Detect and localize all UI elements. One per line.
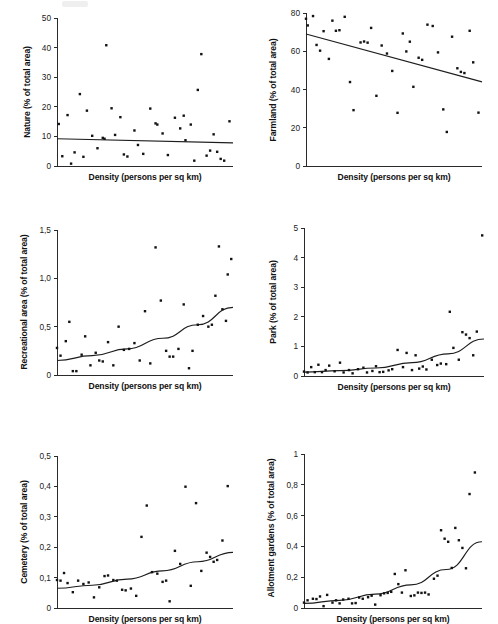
chart-nature: 01020304050Nature (% of total area)Densi… xyxy=(0,0,249,208)
data-point xyxy=(130,587,132,589)
data-point xyxy=(335,30,337,32)
data-point xyxy=(227,485,229,487)
data-point xyxy=(102,360,104,362)
data-point xyxy=(379,594,381,596)
x-axis-title: Density (persons per sq km) xyxy=(338,382,451,392)
data-point xyxy=(420,592,422,594)
data-point xyxy=(59,579,61,581)
data-point xyxy=(165,579,167,581)
y-tick-label: 0,3 xyxy=(39,512,51,522)
data-point xyxy=(333,370,335,372)
y-tick-label: 1 xyxy=(293,449,298,459)
panel-nature: 01020304050Nature (% of total area)Densi… xyxy=(0,0,249,208)
data-point xyxy=(133,342,135,344)
data-point xyxy=(378,371,380,373)
data-point xyxy=(179,127,181,129)
data-point xyxy=(386,52,388,54)
data-point xyxy=(432,25,434,27)
y-tick-label: 1,0 xyxy=(39,273,51,283)
y-tick-label: 20 xyxy=(291,123,301,133)
data-point xyxy=(70,162,72,164)
data-point xyxy=(200,570,202,572)
data-point xyxy=(305,18,307,20)
data-point xyxy=(359,41,361,43)
data-point xyxy=(402,366,404,368)
data-points xyxy=(303,234,484,374)
data-point xyxy=(412,86,414,88)
data-point xyxy=(390,591,392,593)
data-point xyxy=(103,138,105,140)
data-point xyxy=(324,369,326,371)
data-point xyxy=(58,123,60,125)
data-point xyxy=(223,159,225,161)
data-point xyxy=(465,567,467,569)
data-point xyxy=(362,367,364,369)
data-point xyxy=(144,310,146,312)
data-point xyxy=(124,589,126,591)
data-point xyxy=(426,23,428,25)
data-point xyxy=(366,371,368,373)
y-tick-label: 2 xyxy=(293,312,298,322)
data-point xyxy=(161,581,163,583)
y-tick-label: 0 xyxy=(46,161,51,171)
data-point xyxy=(451,36,453,38)
data-point xyxy=(375,95,377,97)
data-point xyxy=(306,371,308,373)
x-axis-title: Density (persons per sq km) xyxy=(338,172,451,182)
data-point xyxy=(358,596,360,598)
data-point xyxy=(367,596,369,598)
x-axis-title: Density (persons per sq km) xyxy=(89,614,202,624)
data-point xyxy=(317,364,319,366)
panel-farmland: 020406080Farmland (% of total area)Densi… xyxy=(249,0,498,208)
data-point xyxy=(386,592,388,594)
data-point xyxy=(396,349,398,351)
data-point xyxy=(135,595,137,597)
data-point xyxy=(315,44,317,46)
data-point xyxy=(225,320,227,322)
data-point xyxy=(195,502,197,504)
y-tick-label: 0 xyxy=(46,603,51,613)
data-point xyxy=(370,594,372,596)
data-point xyxy=(322,605,324,607)
data-point xyxy=(468,30,470,32)
data-point xyxy=(366,41,368,43)
data-point xyxy=(89,364,91,366)
y-tick-label: 80 xyxy=(291,8,301,18)
data-point xyxy=(174,550,176,552)
data-point xyxy=(112,579,114,581)
figure-panel-grid: 01020304050Nature (% of total area)Densi… xyxy=(0,0,498,624)
data-point xyxy=(454,527,456,529)
data-point xyxy=(440,362,442,364)
data-point xyxy=(211,324,213,326)
x-axis-title: Density (persons per sq km) xyxy=(337,614,450,624)
data-point xyxy=(205,551,207,553)
data-point xyxy=(380,44,382,46)
data-point xyxy=(463,72,465,74)
data-point xyxy=(446,131,448,133)
data-point xyxy=(149,362,151,364)
data-point xyxy=(436,574,438,576)
data-point xyxy=(468,493,470,495)
data-point xyxy=(427,593,429,595)
data-point xyxy=(174,117,176,119)
data-point xyxy=(397,583,399,585)
data-point xyxy=(474,471,476,473)
data-point xyxy=(349,81,351,83)
y-axis-title: Park (% of total area) xyxy=(268,260,278,344)
y-axis-title: Nature (% of total area) xyxy=(22,46,32,138)
data-point xyxy=(216,151,218,153)
data-point xyxy=(183,303,185,305)
data-point xyxy=(387,369,389,371)
data-point xyxy=(422,365,424,367)
data-point xyxy=(95,352,97,354)
chart-park: 012345Park (% of total area)Density (per… xyxy=(249,208,498,416)
y-tick-label: 0 xyxy=(293,603,298,613)
data-point xyxy=(149,107,151,109)
data-point xyxy=(461,331,463,333)
data-point xyxy=(452,347,454,349)
data-point xyxy=(168,600,170,602)
data-points xyxy=(56,245,233,372)
data-point xyxy=(443,538,445,540)
y-tick-label: 1,5 xyxy=(39,225,51,235)
data-point xyxy=(476,330,478,332)
